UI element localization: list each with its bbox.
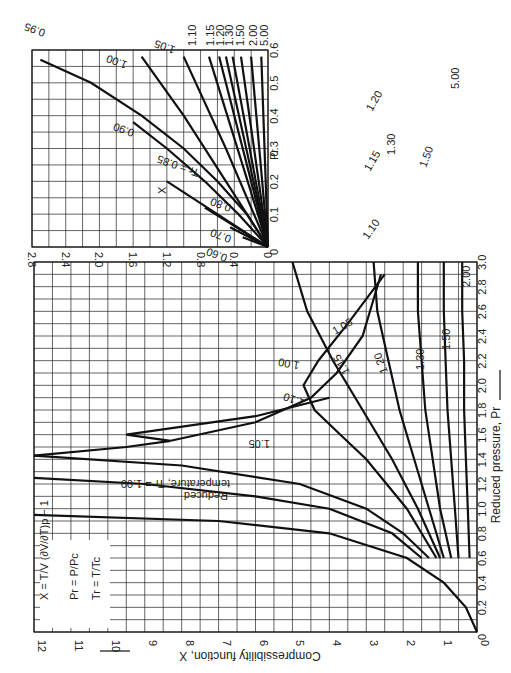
note-temperature: temperature, Tr = 1.00 <box>121 478 230 490</box>
chart-canvas: 0123456789101112 00.20.40.60.81.01.21.41… <box>0 0 511 673</box>
label-2.00: 2.00 <box>460 266 472 287</box>
tick-x-6: 6 <box>258 640 270 646</box>
inset-label-1.10: 1.10 <box>186 25 198 46</box>
tick-x-5: 5 <box>294 640 306 646</box>
tick-x-11: 11 <box>73 640 85 651</box>
tick-x-8: 8 <box>184 640 196 646</box>
label-5.00: 5.00 <box>449 68 461 89</box>
label-1.50: 1.50 <box>440 329 452 350</box>
main-pr-ticks: 00.20.40.60.81.01.21.41.61.82.02.22.42.6… <box>476 255 488 640</box>
inset-tick-pr-0.4: 0.4 <box>268 108 280 123</box>
inset-tick-pr-0.5: 0.5 <box>268 76 280 91</box>
inset-tick-x-2.0: 2.0 <box>93 252 105 267</box>
inset-tick-pr-0.1: 0.1 <box>268 207 280 222</box>
tick-x-2: 2 <box>405 640 417 646</box>
tick-pr-0.4: 0.4 <box>476 575 488 590</box>
note-reduced: Reduced <box>184 490 228 502</box>
inset-pr-ticks: 00.10.20.30.40.50.6 <box>268 43 280 255</box>
inset-label-1.50: 1.50 <box>234 25 246 46</box>
inset-tick-x-2.8: 2.8 <box>26 252 38 267</box>
formula-x: X = T/V (∂V/∂T)p − 1 <box>38 500 50 600</box>
tick-x-4: 4 <box>331 640 343 646</box>
inset-tick-pr-0: 0 <box>268 249 280 255</box>
formula-pr: Pr = P/Pc <box>68 553 80 600</box>
tick-pr-0: 0 <box>476 634 488 640</box>
inset-pr-label: Pr <box>268 149 280 160</box>
tick-x-3: 3 <box>368 640 380 646</box>
tick-pr-0.6: 0.6 <box>476 551 488 566</box>
formula-tr: Tr = T/Tc <box>90 556 102 600</box>
tick-pr-1.8: 1.8 <box>476 403 488 418</box>
inset-tick-x-1.6: 1.6 <box>127 252 139 267</box>
tick-pr-2.4: 2.4 <box>476 329 488 344</box>
inset-x-ticks: 00.40.81.21.62.02.42.8 <box>26 252 274 267</box>
tick-pr-3.0: 3.0 <box>476 255 488 270</box>
label-1.20-top: 1.20 <box>363 88 384 113</box>
inset-tick-pr-0.2: 0.2 <box>268 174 280 189</box>
tick-x-12: 12 <box>36 640 48 652</box>
tick-x-1: 1 <box>442 640 454 646</box>
tick-pr-2.0: 2.0 <box>476 378 488 393</box>
label-1.10: 1.10 <box>281 391 305 410</box>
inset-tick-x-1.2: 1.2 <box>161 252 173 267</box>
tick-pr-0.2: 0.2 <box>476 600 488 615</box>
inset-tick-x-0.8: 0.8 <box>195 252 207 267</box>
x-axis-title: Reduced pressure, Pr <box>489 407 503 524</box>
inset-x-label: X <box>156 186 168 194</box>
inset-tick-x-0.4: 0.4 <box>228 252 240 267</box>
y-axis-title: Compressibility function, X <box>179 649 320 663</box>
inset-label-0.95: 0.95 <box>22 21 46 40</box>
label-1.30-top: 1.30 <box>385 134 397 155</box>
inset-label-5.00: 5.00 <box>258 25 270 46</box>
label-1.50-top: 1.50 <box>417 144 436 168</box>
tick-pr-1.2: 1.2 <box>476 477 488 492</box>
tick-x-9: 9 <box>147 640 159 646</box>
label-1.15-top: 1.15 <box>361 148 382 173</box>
tick-pr-2.8: 2.8 <box>476 279 488 294</box>
tick-pr-1.6: 1.6 <box>476 427 488 442</box>
tick-pr-2.2: 2.2 <box>476 353 488 368</box>
label-1.30: 1.30 <box>414 349 426 370</box>
tick-pr-2.6: 2.6 <box>476 304 488 319</box>
label-1.00: 1.00 <box>277 356 300 372</box>
label-1.10-top: 1.10 <box>360 217 382 241</box>
inset-tick-x-2.4: 2.4 <box>60 252 72 267</box>
tick-x-7: 7 <box>221 640 233 646</box>
tick-pr-0.8: 0.8 <box>476 526 488 541</box>
tick-pr-1.4: 1.4 <box>476 452 488 467</box>
tick-pr-1.0: 1.0 <box>476 501 488 516</box>
label-1.05: 1.05 <box>249 438 270 450</box>
curve-1.15 <box>304 274 437 558</box>
